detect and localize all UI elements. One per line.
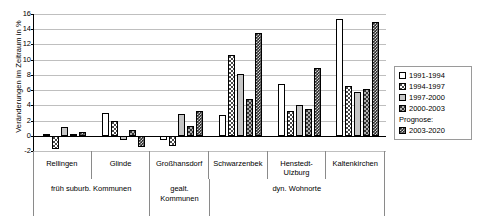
legend-label: 1994-1997: [409, 82, 445, 91]
category-axis: RellingenGlindeGroßhansdorfSchwarzenbekH…: [33, 151, 385, 179]
bar: [237, 74, 244, 136]
bar: [314, 68, 321, 136]
bar: [169, 136, 176, 147]
category-label: Rellingen: [33, 151, 92, 179]
legend-label: 2003-2020: [409, 126, 445, 135]
category-label: Glinde: [92, 151, 151, 179]
category-label: Henstedt-​Ulzburg: [268, 151, 327, 179]
y-tick-label: 8: [9, 71, 31, 79]
bar: [196, 111, 203, 136]
bar-group: [93, 14, 152, 151]
legend-swatch-icon: [399, 83, 406, 90]
y-tick-label: 6: [9, 86, 31, 94]
bar: [219, 115, 226, 136]
bar-chart: Veränderungen im Zeitraum in % 161412108…: [0, 0, 482, 216]
y-tick-label: 0: [9, 132, 31, 140]
category-group-label: früh suburb. Kommunen: [33, 179, 150, 216]
bar: [111, 121, 118, 136]
legend-item[interactable]: 1991-1994: [399, 70, 468, 81]
bar: [278, 84, 285, 136]
bar-groups: [34, 14, 386, 151]
legend-swatch-icon: [399, 94, 406, 101]
bar: [178, 114, 185, 135]
category-group-label: gealt. Kommunen: [150, 179, 209, 216]
bar: [52, 136, 59, 149]
bar: [120, 136, 127, 141]
legend-item[interactable]: 2003-2020: [399, 125, 468, 136]
legend-item[interactable]: 2000-2003: [399, 103, 468, 114]
y-tick-label: -2: [9, 147, 31, 155]
bar: [228, 55, 235, 136]
bar-group: [269, 14, 328, 151]
legend-swatch-icon: [399, 105, 406, 112]
legend-swatch-icon: [399, 72, 406, 79]
bar-group: [34, 14, 93, 151]
legend-item[interactable]: 1994-1997: [399, 81, 468, 92]
bar: [305, 109, 312, 136]
bar: [246, 99, 253, 136]
bar: [138, 136, 145, 147]
y-tick-label: 16: [9, 10, 31, 18]
bar: [43, 134, 50, 136]
y-tick-label: 10: [9, 56, 31, 64]
bar-group: [327, 14, 386, 151]
bar-group: [151, 14, 210, 151]
bar: [345, 86, 352, 136]
bar: [102, 113, 109, 136]
bar: [372, 22, 379, 136]
category-label: Kaltenkirchen: [326, 151, 385, 179]
bar: [79, 132, 86, 136]
legend-label: 2000-2003: [409, 104, 445, 113]
legend-label: 1997-2000: [409, 93, 445, 102]
plot-area: 1614121086420-2: [33, 14, 386, 151]
y-tick-label: 2: [9, 117, 31, 125]
legend-note: Prognose:: [399, 114, 468, 125]
bar: [363, 89, 370, 135]
category-group-label: dyn. Wohnorte: [210, 179, 386, 216]
legend-label: 1991-1994: [409, 71, 445, 80]
y-tick-label: 12: [9, 41, 31, 49]
bar: [336, 19, 343, 136]
bar: [187, 126, 194, 136]
bar: [160, 136, 167, 140]
bar-group: [210, 14, 269, 151]
y-tick-label: 14: [9, 25, 31, 33]
legend: 1991-19941994-19971997-20002000-2003Prog…: [394, 66, 472, 140]
legend-swatch-icon: [399, 127, 406, 134]
bar: [61, 127, 68, 136]
bar: [129, 130, 136, 136]
bar: [287, 111, 294, 135]
category-label: Großhansdorf: [150, 151, 209, 179]
y-tick-label: 4: [9, 102, 31, 110]
category-supergroup-axis: früh suburb. Kommunengealt. Kommunendyn.…: [33, 179, 385, 216]
bar: [296, 105, 303, 135]
bar: [354, 92, 361, 135]
bar: [255, 33, 262, 136]
bar: [70, 134, 77, 136]
legend-item[interactable]: 1997-2000: [399, 92, 468, 103]
category-label: Schwarzenbek: [209, 151, 268, 179]
